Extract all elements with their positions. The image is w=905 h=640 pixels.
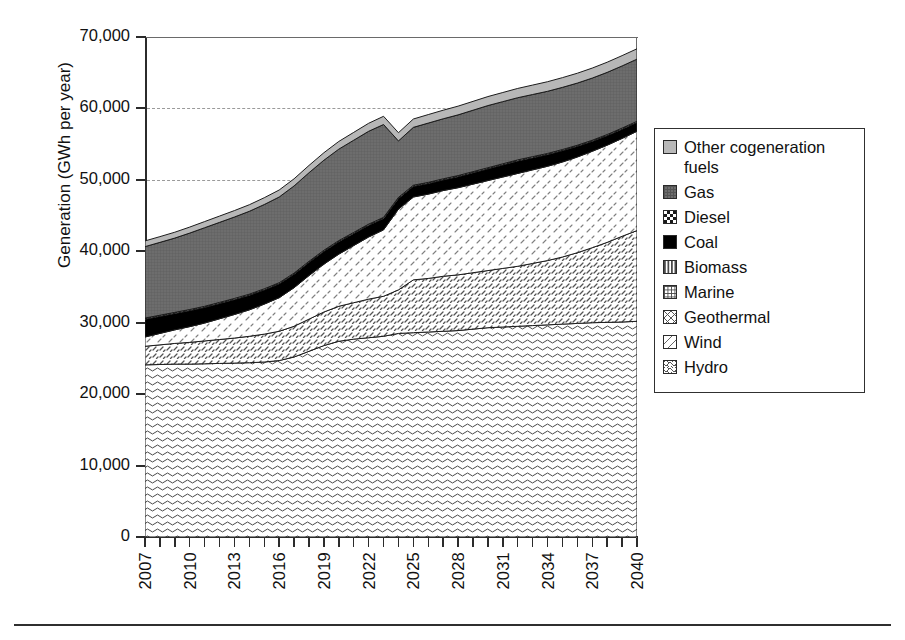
x-axis-tick	[249, 538, 250, 547]
gas-swatch-icon	[663, 185, 677, 199]
x-axis-tick	[606, 538, 607, 547]
x-axis-tick	[547, 538, 548, 547]
x-axis-tick	[457, 538, 458, 547]
x-axis-label: 2022	[360, 552, 379, 590]
legend-item-label: Biomass	[684, 257, 747, 277]
legend-item-label: Wind	[684, 332, 722, 352]
cogen-swatch-icon	[663, 140, 677, 154]
x-axis-tick	[592, 538, 593, 547]
x-axis-tick	[428, 538, 429, 547]
x-axis-label: 2025	[404, 552, 423, 590]
y-axis-label: 20,000	[40, 383, 130, 402]
x-axis-tick	[532, 538, 533, 547]
chart-figure: Generation (GWh per year) 010,00020,0003…	[0, 0, 905, 640]
x-axis-label: 2034	[539, 552, 558, 590]
x-axis-tick	[562, 538, 563, 547]
geothermal-swatch-icon	[663, 310, 677, 324]
marine-swatch-icon	[663, 285, 677, 299]
legend-item[interactable]: Marine	[663, 282, 856, 302]
x-axis-tick	[338, 538, 339, 547]
x-axis-tick	[219, 538, 220, 547]
y-axis-label: 30,000	[40, 312, 130, 331]
x-axis-tick	[293, 538, 294, 547]
x-axis-tick	[636, 538, 637, 547]
stacked-area-chart	[145, 37, 637, 537]
hydro-swatch-icon	[663, 360, 677, 374]
legend-item[interactable]: Geothermal	[663, 307, 856, 327]
x-axis-tick	[502, 538, 503, 547]
x-axis-tick	[621, 538, 622, 547]
x-axis-tick	[577, 538, 578, 547]
legend-item[interactable]: Coal	[663, 232, 856, 252]
x-axis-label: 2028	[449, 552, 468, 590]
legend-item[interactable]: Wind	[663, 332, 856, 352]
legend-item-label: Gas	[684, 182, 714, 202]
legend-item-label: Geothermal	[684, 307, 770, 327]
legend-item[interactable]: Hydro	[663, 357, 856, 377]
legend-item-label: Coal	[684, 232, 718, 252]
legend-item-label: Hydro	[684, 357, 728, 377]
x-axis-tick	[383, 538, 384, 547]
x-axis-label: 2019	[315, 552, 334, 590]
x-axis-tick	[278, 538, 279, 547]
y-axis-label: 70,000	[40, 26, 130, 45]
legend: Other cogeneration fuelsGasDieselCoalBio…	[654, 128, 865, 393]
x-axis-tick	[308, 538, 309, 547]
x-axis-label: 2016	[270, 552, 289, 590]
x-axis-tick	[323, 538, 324, 547]
x-axis-tick	[487, 538, 488, 547]
x-axis-label: 2031	[494, 552, 513, 590]
x-axis-tick	[398, 538, 399, 547]
x-axis-label: 2013	[225, 552, 244, 590]
legend-item[interactable]: Biomass	[663, 257, 856, 277]
x-axis-tick	[472, 538, 473, 547]
x-axis-tick	[159, 538, 160, 547]
x-axis-label: 2037	[583, 552, 602, 590]
legend-item[interactable]: Diesel	[663, 207, 856, 227]
x-axis-tick	[517, 538, 518, 547]
x-axis-tick	[174, 538, 175, 547]
x-axis-tick	[189, 538, 190, 547]
x-axis-label: 2010	[181, 552, 200, 590]
y-axis-label: 10,000	[40, 455, 130, 474]
x-axis-tick	[442, 538, 443, 547]
x-axis-label: 2007	[136, 552, 155, 590]
legend-item[interactable]: Other cogeneration fuels	[663, 137, 856, 177]
legend-item-label: Marine	[684, 282, 734, 302]
biomass-swatch-icon	[663, 260, 677, 274]
y-axis-label: 50,000	[40, 169, 130, 188]
legend-item[interactable]: Gas	[663, 182, 856, 202]
x-axis-tick	[413, 538, 414, 547]
x-axis-tick	[264, 538, 265, 547]
x-axis-tick	[144, 538, 145, 547]
x-axis-tick	[368, 538, 369, 547]
x-axis-tick	[234, 538, 235, 547]
footer-rule	[14, 624, 891, 626]
x-axis-tick	[353, 538, 354, 547]
y-axis-title: Generation (GWh per year)	[55, 0, 75, 330]
legend-item-label: Diesel	[684, 207, 730, 227]
coal-swatch-icon	[663, 235, 677, 249]
y-axis-label: 0	[40, 526, 130, 545]
diesel-swatch-icon	[663, 210, 677, 224]
x-axis-tick	[204, 538, 205, 547]
y-axis-label: 40,000	[40, 240, 130, 259]
x-axis-label: 2040	[628, 552, 647, 590]
legend-item-label: Other cogeneration fuels	[684, 137, 856, 177]
y-axis-label: 60,000	[40, 97, 130, 116]
wind-swatch-icon	[663, 335, 677, 349]
plot-area	[145, 37, 637, 537]
